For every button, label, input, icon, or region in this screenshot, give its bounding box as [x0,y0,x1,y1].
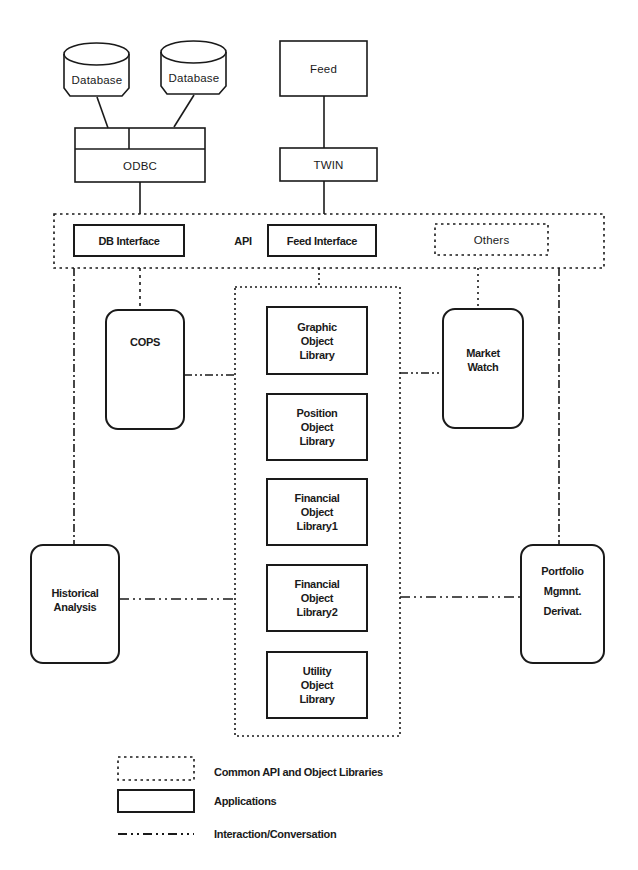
legend-common-label: Common API and Object Libraries [214,766,383,778]
portfolio-label: Portfolio Mgmnt. Derivat. [521,560,604,622]
feed-interface-label: Feed Interface [268,225,376,256]
db1-odbc-connector [97,97,108,128]
market-watch-label: Market Watch [443,340,523,380]
api-label: API [225,225,261,256]
financial-object-library-2: Financial Object Library2 [267,565,367,631]
legend-applications-label: Applications [214,795,276,807]
cops-shape [106,310,184,429]
financial-object-library-1: Financial Object Library1 [267,479,367,545]
feed-label: Feed [280,41,367,96]
position-object-library: Position Object Library [267,394,367,460]
others-label: Others [435,224,548,255]
legend-interaction-label: Interaction/Conversation [214,828,336,840]
database-2-label: Database [161,68,227,88]
db2-odbc-connector [174,95,194,127]
legend-solid-swatch [118,790,194,812]
odbc-label: ODBC [75,150,205,182]
database-1-label: Database [64,70,130,90]
utility-object-library: Utility Object Library [267,652,367,718]
cops-label: COPS [106,330,184,354]
historical-analysis-label: Historical Analysis [31,580,119,620]
graphic-object-library: Graphic Object Library [267,307,367,374]
twin-label: TWIN [280,148,377,181]
db-interface-label: DB Interface [74,225,184,256]
legend-dotted-swatch [118,757,194,780]
